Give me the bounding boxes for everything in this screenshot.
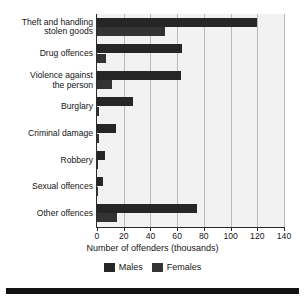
x-tick-label: 140 (277, 231, 291, 241)
x-axis-title: Number of offenders (thousands) (0, 243, 305, 253)
y-axis-label: Violence againstthe person (0, 71, 93, 90)
x-tick-label: 120 (250, 231, 264, 241)
y-axis-label: Other offences (0, 209, 93, 219)
bar-group (97, 14, 284, 41)
y-axis-label: Burglary (0, 102, 93, 112)
bar-males (97, 18, 257, 27)
legend-swatch-females-icon (152, 263, 163, 272)
bar-females (97, 54, 106, 63)
bar-chart: Theft and handlingstolen goodsDrug offen… (0, 0, 305, 299)
bar-group (97, 41, 284, 68)
legend-item-males: Males (104, 262, 143, 272)
x-tick-label: 60 (172, 231, 182, 241)
bar-group (97, 67, 284, 94)
legend-label-males: Males (119, 262, 143, 272)
bar-females (97, 27, 165, 36)
chart-legend: Males Females (0, 262, 305, 272)
x-tick-label: 80 (199, 231, 209, 241)
y-axis-label: Drug offences (0, 49, 93, 59)
x-tick-label: 20 (119, 231, 129, 241)
bar-group (97, 200, 284, 227)
bar-group (97, 147, 284, 174)
bar-males (97, 124, 116, 133)
bar-males (97, 71, 181, 80)
y-axis-label: Criminal damage (0, 129, 93, 139)
y-axis-line (96, 14, 97, 227)
legend-label-females: Females (167, 262, 202, 272)
plot-area (97, 14, 284, 227)
bar-females (97, 107, 99, 116)
x-axis-ticks: 020406080100120140 (0, 227, 305, 241)
footer-rule (6, 288, 299, 294)
x-tick-label: 0 (95, 231, 100, 241)
bar-males (97, 97, 133, 106)
bar-females (97, 134, 99, 143)
x-tick-label: 100 (223, 231, 237, 241)
y-axis-label: Theft and handlingstolen goods (0, 18, 93, 37)
bar-group (97, 121, 284, 148)
bar-females (97, 213, 117, 222)
bar-females (97, 187, 98, 196)
bar-males (97, 151, 105, 160)
legend-swatch-males-icon (104, 263, 115, 272)
legend-item-females: Females (152, 262, 202, 272)
bar-females (97, 80, 112, 89)
bar-males (97, 204, 197, 213)
x-tick-label: 40 (146, 231, 156, 241)
bar-males (97, 177, 103, 186)
bar-males (97, 44, 182, 53)
y-axis-category-labels: Theft and handlingstolen goodsDrug offen… (0, 14, 93, 227)
bar-females (97, 160, 98, 169)
y-axis-label: Sexual offences (0, 182, 93, 192)
bar-group (97, 174, 284, 201)
y-axis-label: Robbery (0, 156, 93, 166)
gridline-140 (284, 14, 285, 227)
bar-group (97, 94, 284, 121)
bar-series-container (97, 14, 284, 227)
